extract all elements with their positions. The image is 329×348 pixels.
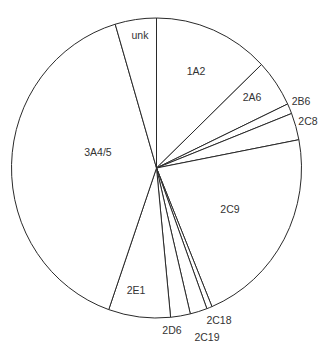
slice-label-2b6: 2B6 — [292, 95, 311, 107]
slice-label-2e1: 2E1 — [127, 284, 146, 296]
slice-label-2c19: 2C19 — [194, 331, 219, 343]
slice-label-2a6: 2A6 — [243, 91, 262, 103]
pie-slices — [12, 18, 302, 318]
pie-chart: 1A22A62B62C82C92C182C192D62E13A4/5unk — [0, 0, 329, 348]
slice-label-2c9: 2C9 — [220, 203, 239, 215]
slice-label-2d6: 2D6 — [162, 324, 181, 336]
slice-label-2c18: 2C18 — [206, 314, 231, 326]
slice-label-1a2: 1A2 — [187, 65, 206, 77]
slice-label-2c8: 2C8 — [298, 115, 317, 127]
slice-label-3a4-5: 3A4/5 — [84, 146, 112, 158]
slice-label-unk: unk — [132, 29, 150, 41]
